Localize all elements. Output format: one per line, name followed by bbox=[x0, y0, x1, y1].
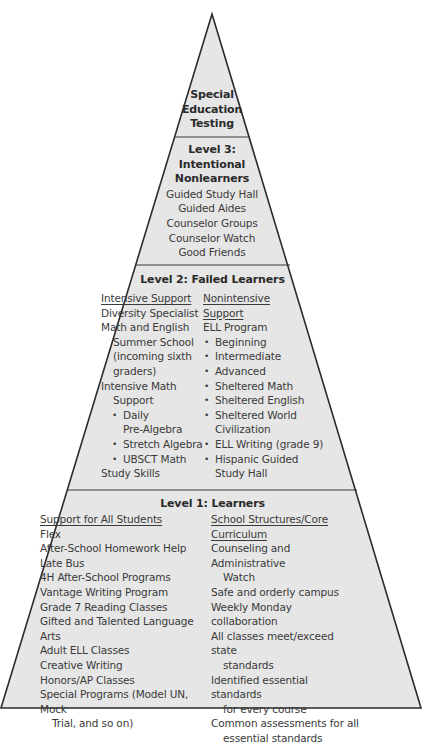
tier-level1-left-item: Flex bbox=[40, 527, 210, 542]
tier-level1-right-item: All classes meet/exceed state bbox=[211, 629, 361, 658]
tier-level2-right-item: Study Hall bbox=[203, 466, 328, 481]
tier-level2-left-bullet: UBSCT Math bbox=[101, 452, 206, 467]
tier-level1-right-item: Counseling and Administrative bbox=[211, 541, 361, 570]
tier-level2-left-bullet: Stretch Algebra bbox=[101, 437, 206, 452]
tier-level3-title-line: Level 3: bbox=[132, 143, 292, 158]
tier-level1-left-item: Honors/AP Classes bbox=[40, 673, 210, 688]
tier-level2-left-item: Pre-Algebra bbox=[101, 422, 206, 437]
tier-level2-right-bullet: Sheltered Math bbox=[203, 379, 328, 394]
tier-level2-right-bullet: Sheltered English bbox=[203, 393, 328, 408]
tier-level1-right-header-line: School Structures/Core bbox=[211, 512, 361, 527]
tier-level1-right-item: Weekly Monday collaboration bbox=[211, 600, 361, 629]
tier-level2-left-item: Intensive Math bbox=[101, 379, 206, 394]
tier-level1-left-item: Special Programs (Model UN, Mock bbox=[40, 687, 210, 716]
tier-level2-left-item: (incoming sixth bbox=[101, 349, 206, 364]
tier-level2-right-header-line: Nonintensive bbox=[203, 291, 328, 306]
tier-level3-title: Level 3: Intentional Nonlearners bbox=[132, 143, 292, 187]
tier-level1-right-header: School Structures/Core Curriculum bbox=[211, 512, 361, 541]
tier-level1-right-item: for every course bbox=[211, 702, 361, 717]
tier-level2-right-bullet: Beginning bbox=[203, 335, 328, 350]
tier-top-title-line: Special bbox=[162, 88, 262, 103]
tier-top-title: Special Education Testing bbox=[162, 88, 262, 132]
tier-level2-right-bullet: Intermediate bbox=[203, 349, 328, 364]
tier-level1-right-item: essential standards bbox=[211, 731, 361, 746]
tier-level2-left-item: Diversity Specialist bbox=[101, 306, 206, 321]
tier-level3-item: Guided Study Hall bbox=[132, 187, 292, 202]
tier-level1-left-item: Adult ELL Classes bbox=[40, 643, 210, 658]
tier-level1-right-item: standards bbox=[211, 658, 361, 673]
tier-level2-left-item: Support bbox=[101, 393, 206, 408]
tier-level1-right-column: School Structures/Core Curriculum Counse… bbox=[211, 512, 361, 746]
tier-level3-title-line: Nonlearners bbox=[132, 172, 292, 187]
tier-level3-item: Counselor Groups bbox=[132, 216, 292, 231]
tier-level1-left-item: 4H After-School Programs bbox=[40, 570, 210, 585]
tier-level2-right-item: Civilization bbox=[203, 422, 328, 437]
tier-level1-left-column: Support for All Students Flex After-Scho… bbox=[40, 512, 210, 731]
tier-level2-title: Level 2: Failed Learners bbox=[100, 273, 325, 288]
tier-level2-right-item: ELL Program bbox=[203, 320, 328, 335]
tier-level1-left-item: After-School Homework Help bbox=[40, 541, 210, 556]
tier-level3-item: Guided Aides bbox=[132, 201, 292, 216]
tier-level2-left-header: Intensive Support bbox=[101, 291, 206, 306]
tier-level2-left-bullet: Daily bbox=[101, 408, 206, 423]
tier-level1-left-item: Grade 7 Reading Classes bbox=[40, 600, 210, 615]
tier-level2-left-item: graders) bbox=[101, 364, 206, 379]
tier-level3-title-line: Intentional bbox=[132, 158, 292, 173]
tier-level1-right-item: Common assessments for all bbox=[211, 716, 361, 731]
tier-level2-left-column: Intensive Support Diversity Specialist M… bbox=[101, 291, 206, 481]
tier-level1-right-header-line: Curriculum bbox=[211, 527, 361, 542]
tier-level2-left-item: Study Skills bbox=[101, 466, 206, 481]
tier-level1-left-item: Creative Writing bbox=[40, 658, 210, 673]
tier-top-title-line: Testing bbox=[162, 117, 262, 132]
tier-level2-right-bullet: Advanced bbox=[203, 364, 328, 379]
tier-level2-right-bullet: ELL Writing (grade 9) bbox=[203, 437, 328, 452]
tier-level2-right-header-line: Support bbox=[203, 306, 328, 321]
tier-level1-left-header: Support for All Students bbox=[40, 512, 210, 527]
tier-level2-right-bullet: Hispanic Guided bbox=[203, 452, 328, 467]
tier-level1-right-item: Identified essential standards bbox=[211, 673, 361, 702]
tier-level2-right-bullet: Sheltered World bbox=[203, 408, 328, 423]
tier-level1-left-item: Vantage Writing Program bbox=[40, 585, 210, 600]
tier-level1-title: Level 1: Learners bbox=[80, 497, 345, 512]
tier-level3-item: Good Friends bbox=[132, 245, 292, 260]
tier-level2-right-column: Nonintensive Support ELL Program Beginni… bbox=[203, 291, 328, 481]
tier-level2-left-item: Math and English bbox=[101, 320, 206, 335]
tier-level1-right-item: Watch bbox=[211, 570, 361, 585]
tier-level3-item: Counselor Watch bbox=[132, 231, 292, 246]
tier-level1-left-item: Gifted and Talented Language Arts bbox=[40, 614, 210, 643]
tier-level1-right-item: Safe and orderly campus bbox=[211, 585, 361, 600]
tier-top-title-line: Education bbox=[162, 103, 262, 118]
tier-level1-left-item: Late Bus bbox=[40, 556, 210, 571]
tier-level2-right-header: Nonintensive Support bbox=[203, 291, 328, 320]
tier-level3: Level 3: Intentional Nonlearners Guided … bbox=[132, 143, 292, 260]
tier-level1-left-item: Trial, and so on) bbox=[40, 716, 210, 731]
tier-level2-left-item: Summer School bbox=[101, 335, 206, 350]
